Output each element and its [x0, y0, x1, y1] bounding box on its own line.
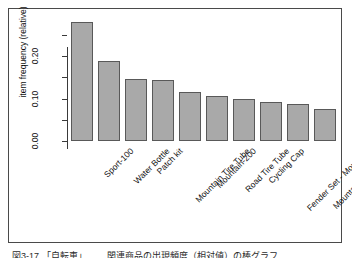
- bar: [71, 22, 93, 141]
- bars-layer: [9, 9, 343, 244]
- bar: [314, 109, 336, 141]
- bar: [287, 104, 309, 141]
- bar-chart-figure: item frequency (relative) 0.000.100.20 S…: [0, 0, 352, 258]
- bar: [233, 99, 255, 141]
- figure-caption: 図3-17 「自転車」…… 関連商品の出現頻度（相対値）の棒グラフ: [12, 251, 302, 258]
- figure-frame: item frequency (relative) 0.000.100.20 S…: [8, 8, 342, 243]
- bar: [125, 79, 147, 141]
- bar: [179, 92, 201, 141]
- bar: [260, 102, 282, 141]
- bar: [152, 80, 174, 141]
- bar: [206, 96, 228, 141]
- bar: [98, 61, 120, 141]
